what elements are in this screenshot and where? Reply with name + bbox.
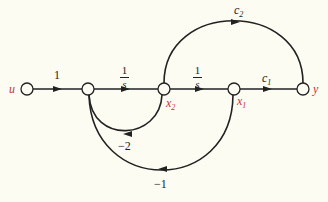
node-x2 [158, 83, 170, 95]
node-label-x2: x2 [166, 97, 175, 112]
edge-x2-y-arc [164, 21, 303, 83]
arrow-icon [158, 166, 167, 172]
node-u [21, 83, 33, 95]
gain-n1-x2: 1s [120, 65, 129, 90]
edge-x1-n1-loop [89, 95, 233, 170]
arrow-icon [53, 86, 62, 92]
node-label-u: u [9, 83, 15, 95]
edge-x2-n1-loop [89, 95, 162, 131]
node-y [297, 83, 309, 95]
arrow-icon [123, 131, 132, 137]
gain-x1-y: c1 [262, 72, 271, 87]
node-label-y: y [313, 83, 318, 95]
gain-x2-n1: −2 [118, 140, 131, 152]
gain-u-n1: 1 [54, 69, 60, 81]
signal-flow-graph [0, 0, 328, 202]
node-label-x1: x1 [237, 95, 246, 110]
node-n1 [82, 83, 94, 95]
gain-x2-y: c2 [234, 4, 243, 19]
gain-x2-x1: 1s [193, 65, 202, 90]
arrow-icon [231, 19, 240, 25]
gain-x1-n1: −1 [154, 178, 167, 190]
